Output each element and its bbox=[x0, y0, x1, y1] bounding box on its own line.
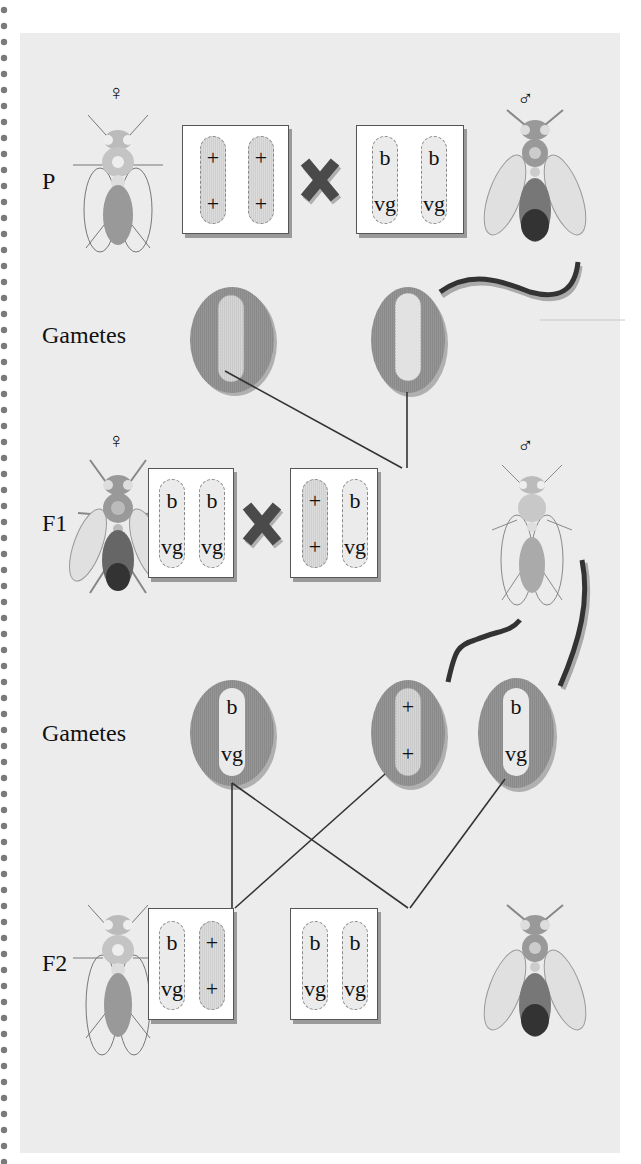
fly-f2-right bbox=[476, 905, 595, 1037]
allele: b bbox=[343, 932, 367, 954]
allele: vg bbox=[343, 536, 367, 558]
allele: b bbox=[343, 490, 367, 512]
row-label-gametes-1: Gametes bbox=[42, 322, 126, 349]
chromosome: + + bbox=[200, 136, 226, 224]
female-symbol-p: ♀ bbox=[108, 82, 125, 104]
allele: + bbox=[249, 193, 273, 215]
allele: vg bbox=[200, 536, 224, 558]
genotype-box-p-female: + + + + bbox=[182, 125, 289, 234]
allele: vg bbox=[303, 978, 327, 1000]
cross-mark-p bbox=[305, 162, 337, 201]
allele: b bbox=[503, 696, 529, 718]
gamete-sperm-3 bbox=[478, 560, 588, 792]
allele: + bbox=[200, 932, 224, 954]
allele: b bbox=[200, 490, 224, 512]
chromosome: b vg bbox=[342, 479, 368, 568]
gamete-sperm-3-alleles: b vg bbox=[503, 688, 529, 776]
genotype-box-f2-b: b vg b vg bbox=[290, 908, 378, 1020]
allele: b bbox=[219, 696, 245, 718]
chromosome: b vg bbox=[421, 136, 447, 224]
allele: + bbox=[249, 147, 273, 169]
allele: vg bbox=[219, 743, 245, 765]
chromosome: b vg bbox=[199, 479, 225, 568]
chromosome: b vg bbox=[302, 921, 328, 1010]
allele: + bbox=[303, 490, 327, 512]
chromosome: b vg bbox=[372, 136, 398, 224]
gamete-egg-1 bbox=[190, 287, 277, 396]
chromosome: b vg bbox=[159, 921, 185, 1010]
chromosome: b vg bbox=[159, 479, 185, 568]
chromosome: + + bbox=[199, 921, 225, 1010]
genotype-box-f1-male: + + b vg bbox=[290, 468, 378, 578]
cross-line bbox=[225, 371, 402, 468]
female-symbol-f1: ♀ bbox=[108, 430, 125, 452]
gamete-sperm-2-alleles: + + bbox=[395, 688, 421, 776]
allele: vg bbox=[160, 536, 184, 558]
row-label-f1: F1 bbox=[42, 510, 67, 537]
allele: b bbox=[160, 932, 184, 954]
row-label-gametes-2: Gametes bbox=[42, 720, 126, 747]
gamete-sperm-1 bbox=[371, 262, 580, 397]
fly-p-female bbox=[73, 115, 163, 252]
chromosome: + + bbox=[248, 136, 274, 224]
allele: b bbox=[373, 147, 397, 169]
genotype-box-p-male: b vg b vg bbox=[356, 125, 464, 234]
row-label-f2: F2 bbox=[42, 950, 67, 977]
allele: b bbox=[303, 932, 327, 954]
allele: vg bbox=[343, 978, 367, 1000]
fly-f1-male bbox=[492, 465, 572, 605]
cross-mark-f1 bbox=[247, 506, 279, 545]
allele: + bbox=[201, 147, 225, 169]
allele: vg bbox=[422, 193, 446, 215]
fly-p-male bbox=[476, 110, 595, 242]
allele: + bbox=[395, 743, 421, 765]
male-symbol-p: ♂ bbox=[517, 88, 534, 110]
male-symbol-f1: ♂ bbox=[517, 435, 534, 457]
chromosome: b vg bbox=[342, 921, 368, 1010]
row-label-p: P bbox=[42, 168, 55, 195]
allele: + bbox=[200, 978, 224, 1000]
allele: vg bbox=[503, 743, 529, 765]
gamete-egg-2-alleles: b vg bbox=[219, 688, 245, 776]
allele: vg bbox=[373, 193, 397, 215]
genotype-box-f1-female: b vg b vg bbox=[148, 468, 234, 578]
allele: + bbox=[395, 696, 421, 718]
allele: vg bbox=[160, 978, 184, 1000]
chromosome: + + bbox=[302, 479, 328, 568]
allele: + bbox=[303, 536, 327, 558]
allele: b bbox=[422, 147, 446, 169]
allele: + bbox=[201, 193, 225, 215]
genotype-box-f2-a: b vg + + bbox=[148, 908, 234, 1020]
allele: b bbox=[160, 490, 184, 512]
